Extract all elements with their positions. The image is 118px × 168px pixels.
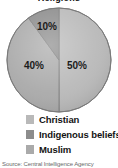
pie-outline xyxy=(7,8,111,112)
legend-item-muslim[interactable]: Muslim xyxy=(26,142,118,157)
pie-chart: 10% 40% 50% xyxy=(4,7,114,113)
legend-label-indigenous-beliefs: Indigenous beliefs xyxy=(39,129,118,140)
legend-swatch-christian xyxy=(26,115,34,124)
legend-swatch-indigenous-beliefs xyxy=(26,130,34,139)
religions-pie-figure: Religions 10% 40% 50% xyxy=(0,0,118,168)
source-note: Source: Central Intelligence Agency xyxy=(0,160,118,168)
pie-label-indigenous: 10% xyxy=(37,21,57,32)
legend-item-christian[interactable]: Christian xyxy=(26,112,118,127)
chart-title-cropped: Religions xyxy=(0,0,118,4)
legend-label-muslim: Muslim xyxy=(39,144,71,155)
pie-label-muslim: 40% xyxy=(24,60,44,71)
pie-label-christian: 50% xyxy=(67,60,87,71)
pie-chart-svg: 10% 40% 50% xyxy=(4,7,114,113)
chart-title: Religions xyxy=(0,0,118,4)
source-note-cropped: Source: Central Intelligence Agency xyxy=(0,160,118,168)
legend-label-christian: Christian xyxy=(39,114,79,125)
legend-item-indigenous-beliefs[interactable]: Indigenous beliefs xyxy=(26,127,118,142)
chart-legend: Christian Indigenous beliefs Muslim xyxy=(26,112,118,157)
legend-swatch-muslim xyxy=(26,145,34,154)
